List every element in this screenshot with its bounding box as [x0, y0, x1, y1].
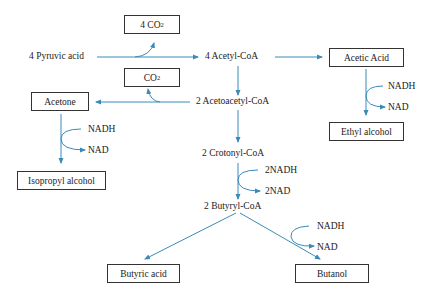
arrow-cofactor-butanol [291, 226, 314, 246]
node-acetyl-coa: 4 Acetyl-CoA [205, 52, 258, 62]
cofactor-crotonyl-2nadh: 2NADH [265, 166, 297, 176]
arrow-butyryl-to-butyric [145, 213, 236, 259]
node-isopropyl-alcohol: Isopropyl alcohol [17, 171, 106, 190]
cofactor-butanol-nad: NAD [317, 243, 338, 253]
arrow-co2-release-mid [148, 89, 160, 102]
arrow-cofactor-acetic [366, 86, 385, 107]
cofactor-acetic-nad: NAD [388, 103, 409, 113]
node-co2-subscript: 2 [157, 74, 160, 81]
node-butyryl-coa: 2 Butyryl-CoA [204, 202, 261, 212]
cofactor-butanol-nadh: NADH [317, 222, 344, 232]
node-butyric-acid: Butyric acid [107, 264, 180, 283]
node-4co2: 4 CO2 [124, 15, 180, 34]
node-acetone: Acetone [31, 92, 89, 111]
arrow-cofactor-crotonyl [238, 170, 260, 191]
node-co2-label: CO [144, 73, 157, 83]
node-4co2-label: 4 CO [140, 20, 160, 30]
arrow-butyryl-to-butanol [240, 213, 320, 259]
arrow-co2-release-top [135, 43, 154, 57]
node-pyruvic-acid: 4 Pyruvic acid [29, 52, 84, 62]
node-acetoacetyl-coa: 2 Acetoacetyl-CoA [196, 97, 269, 107]
node-ethyl-alcohol: Ethyl alcohol [329, 122, 404, 141]
node-crotonyl-coa: 2 Crotonyl-CoA [202, 149, 264, 159]
cofactor-acetone-nadh: NADH [88, 125, 115, 135]
arrow-cofactor-acetone [61, 129, 85, 150]
node-co2: CO2 [124, 68, 180, 87]
node-butanol: Butanol [295, 264, 369, 283]
cofactor-crotonyl-2nad: 2NAD [265, 187, 290, 197]
cofactor-acetic-nadh: NADH [388, 82, 415, 92]
node-acetic-acid: Acetic Acid [329, 48, 404, 67]
cofactor-acetone-nad: NAD [88, 146, 109, 156]
node-4co2-subscript: 2 [161, 21, 164, 28]
